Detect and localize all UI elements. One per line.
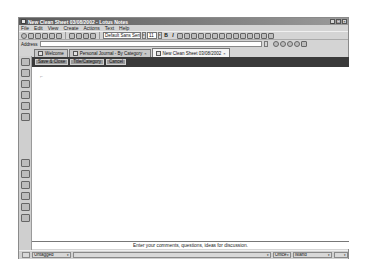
databases-bookmark-icon[interactable] [21, 170, 30, 178]
title-category-button[interactable]: Title/Category [70, 59, 104, 65]
stop-icon[interactable] [287, 41, 293, 47]
internet-bookmark-icon[interactable] [21, 203, 30, 211]
search-icon[interactable] [301, 41, 307, 47]
font-name-select[interactable]: Default Sans Serif [103, 32, 141, 39]
address-input[interactable] [40, 41, 262, 47]
tab-bar: Welcome Personal Journal - By Category ×… [32, 48, 350, 57]
align-left-icon[interactable] [191, 33, 197, 39]
minimize-button[interactable]: _ [330, 19, 335, 24]
inbox-indicator[interactable]: ▾ [334, 252, 348, 258]
tab-label: Personal Journal - By Category [80, 51, 143, 56]
help-icon[interactable] [261, 33, 267, 39]
tab-new-clean-sheet[interactable]: New Clean Sheet 03/08/2002 × [152, 48, 230, 57]
font-size-dropdown-arrow[interactable]: ▾ [158, 32, 162, 39]
chevron-down-icon: ▾ [67, 253, 69, 257]
paste-icon[interactable] [69, 33, 75, 39]
lotus-notes-window: New Clean Sheet 03/08/2002 - Lotus Notes… [18, 17, 349, 259]
chevron-down-icon: ▾ [267, 253, 269, 257]
chevron-down-icon: ▾ [328, 253, 330, 257]
more-bookmarks-icon[interactable] [21, 181, 30, 189]
highlight-icon[interactable] [184, 33, 190, 39]
address-bar: Address [19, 40, 348, 48]
window-title: New Clean Sheet 03/08/2002 - Lotus Notes [28, 19, 128, 25]
document-body[interactable]: ⌐ [32, 67, 349, 241]
link-icon[interactable] [240, 33, 246, 39]
tag-select-value: Untagged [34, 252, 54, 257]
chevron-down-icon: ▾ [287, 253, 289, 257]
applications-bookmark-icon[interactable] [21, 214, 30, 222]
clipboard-icon[interactable] [83, 33, 89, 39]
comment-prompt[interactable]: Enter your comments, questions, ideas fo… [32, 241, 349, 249]
forward-icon[interactable] [280, 41, 286, 47]
attach-icon[interactable] [233, 33, 239, 39]
move-to-folder-icon[interactable] [42, 33, 48, 39]
toolbar-divider [99, 32, 100, 39]
new-memo-icon[interactable] [21, 33, 27, 39]
table-icon[interactable] [226, 33, 232, 39]
history-bookmark-icon[interactable] [21, 192, 30, 200]
close-button[interactable]: × [342, 19, 347, 24]
location-select[interactable]: Office ▾ [273, 252, 291, 258]
exit-icon[interactable] [268, 33, 274, 39]
italic-button[interactable]: I [170, 32, 176, 39]
island-select-value: Island [295, 252, 307, 257]
chevron-down-icon: ▾ [344, 253, 346, 257]
address-dropdown-arrow[interactable] [264, 41, 268, 47]
print-icon[interactable] [35, 33, 41, 39]
find-icon[interactable] [90, 33, 96, 39]
toolbar-divider [65, 32, 66, 39]
copy-icon[interactable] [56, 33, 62, 39]
calendar-bookmark-icon[interactable] [21, 80, 30, 88]
tag-select[interactable]: Untagged ▾ [32, 252, 72, 258]
lotus-notes-app-icon [21, 19, 26, 24]
document-icon [156, 51, 161, 56]
tab-label: Welcome [45, 51, 64, 56]
bookmark-bar [19, 56, 32, 259]
indent-icon[interactable] [212, 33, 218, 39]
text-color-icon[interactable] [177, 33, 183, 39]
bullet-list-icon[interactable] [198, 33, 204, 39]
home-bookmark-icon[interactable] [21, 58, 30, 66]
navigation-icons [273, 41, 307, 47]
favorites-bookmark-icon[interactable] [21, 159, 30, 167]
tab-personal-journal[interactable]: Personal Journal - By Category × [69, 49, 151, 57]
refresh-icon[interactable] [294, 41, 300, 47]
back-icon[interactable] [273, 41, 279, 47]
location-value: Office [275, 252, 287, 257]
numbered-list-icon[interactable] [205, 33, 211, 39]
tab-welcome[interactable]: Welcome [34, 49, 68, 57]
font-size-select[interactable]: 11 [147, 32, 157, 39]
tab-close-icon[interactable]: × [223, 51, 225, 56]
binoculars-icon[interactable] [254, 33, 260, 39]
toolbar: Default Sans Serif ▾ 11 ▾ B I [19, 31, 348, 40]
undo-icon[interactable] [76, 33, 82, 39]
tab-label: New Clean Sheet 03/08/2002 [163, 51, 222, 56]
cut-icon[interactable] [49, 33, 55, 39]
island-select[interactable]: Island ▾ [293, 252, 333, 258]
cancel-button[interactable]: Cancel [106, 59, 126, 65]
todo-bookmark-icon[interactable] [21, 102, 30, 110]
save-and-close-button[interactable]: Save & Close [35, 59, 68, 65]
database-icon [73, 51, 78, 56]
title-bar: New Clean Sheet 03/08/2002 - Lotus Notes… [19, 18, 348, 25]
action-bar: Save & Close Title/Category Cancel [32, 57, 349, 67]
maximize-button[interactable]: □ [336, 19, 341, 24]
spell-check-icon[interactable] [247, 33, 253, 39]
text-cursor: ⌐ [40, 73, 43, 79]
replicator-bookmark-icon[interactable] [21, 113, 30, 121]
status-bar: Untagged ▾ ▾ Office ▾ Island ▾ ▾ [19, 250, 348, 259]
window-controls: _ □ × [330, 19, 347, 24]
status-message-field: ▾ [73, 252, 270, 258]
status-indicator[interactable] [22, 252, 30, 258]
font-name-dropdown-arrow[interactable]: ▾ [142, 32, 146, 39]
address-book-bookmark-icon[interactable] [21, 91, 30, 99]
tab-close-icon[interactable]: × [144, 51, 146, 56]
save-icon[interactable] [28, 33, 34, 39]
bold-button[interactable]: B [163, 32, 169, 39]
text-properties-icon[interactable] [219, 33, 225, 39]
home-icon [38, 51, 43, 56]
address-label: Address [21, 42, 38, 47]
mail-bookmark-icon[interactable] [21, 69, 30, 77]
